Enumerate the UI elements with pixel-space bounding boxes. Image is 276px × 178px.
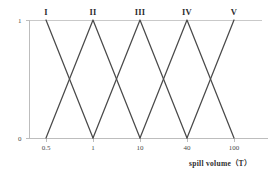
x-tick-label-100: 100 (229, 145, 240, 152)
membership-curve-IV (140, 20, 234, 138)
membership-curve-II (46, 20, 140, 138)
x-axis-title: spill volume（T） (189, 160, 251, 168)
fuzzy-membership-chart: I II III IV V 1 0 0.5 1 10 40 100 spill … (0, 0, 276, 178)
x-tick-label-1: 1 (91, 145, 95, 152)
y-tick-label-1: 1 (18, 18, 22, 25)
x-tick-label-0-5: 0.5 (42, 145, 51, 152)
membership-curve-III (93, 20, 187, 138)
peak-label-IV: IV (182, 8, 192, 17)
peak-label-III: III (135, 8, 146, 17)
x-tick-label-10: 10 (137, 145, 144, 152)
peak-label-I: I (44, 8, 48, 17)
y-tick-label-0: 0 (18, 136, 22, 143)
x-tick-label-40: 40 (184, 145, 191, 152)
peak-label-V: V (231, 8, 237, 17)
peak-label-II: II (89, 8, 96, 17)
